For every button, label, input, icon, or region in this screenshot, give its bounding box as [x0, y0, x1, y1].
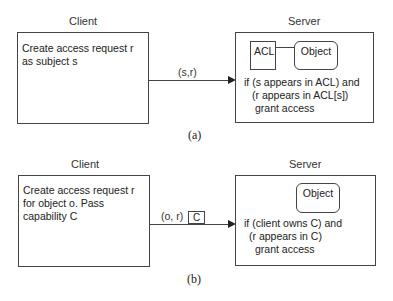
- server-text-line: grant access: [255, 243, 315, 256]
- server-text-line: if (client owns C) and: [244, 217, 342, 230]
- server-box: Object if (client owns C) and (r appears…: [235, 175, 376, 266]
- caption-b: (b): [187, 272, 201, 287]
- server-text-line: (r appears in C): [249, 230, 322, 243]
- object-box: Object: [296, 183, 340, 213]
- message-label: (o, r): [161, 210, 183, 222]
- capability-box: C: [188, 211, 205, 224]
